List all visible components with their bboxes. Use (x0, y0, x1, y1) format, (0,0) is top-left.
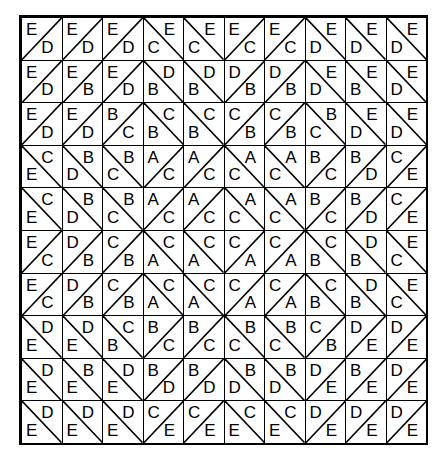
triangle-label: C (391, 149, 403, 166)
grid-cell: DE (386, 400, 428, 444)
triangle-label: B (188, 124, 199, 141)
triangle-label: E (26, 166, 37, 183)
triangle-label: E (107, 64, 118, 81)
triangle-label: A (285, 294, 296, 311)
grid-cell: CB (264, 315, 306, 359)
triangle-label: D (391, 319, 403, 336)
grid-cell: CB (305, 102, 347, 146)
triangle-label: C (269, 209, 281, 226)
triangle-label: E (107, 422, 118, 439)
grid-cell: CB (102, 145, 144, 189)
triangle-label: C (203, 166, 215, 183)
grid-cell: ED (21, 17, 63, 61)
grid-cell: AC (183, 273, 225, 317)
triangle-label: B (148, 124, 159, 141)
grid-cell: DE (305, 17, 347, 61)
triangle-label: E (326, 422, 337, 439)
triangle-label: B (148, 81, 159, 98)
grid-cell: ED (62, 102, 104, 146)
grid-cell: DE (305, 400, 347, 444)
grid-cell: BE (345, 358, 387, 402)
triangle-label: C (229, 337, 241, 354)
triangle-label: B (285, 81, 296, 98)
triangle-label: B (310, 252, 321, 269)
grid-cell: CB (102, 187, 144, 231)
triangle-label: A (148, 294, 159, 311)
triangle-label: D (82, 39, 94, 56)
grid-cell: CE (386, 145, 428, 189)
triangle-label: E (26, 234, 37, 251)
triangle-label: D (310, 39, 322, 56)
grid-cell: AC (183, 145, 225, 189)
grid-cell: AC (143, 230, 185, 274)
grid-cell: CA (224, 273, 266, 317)
triangle-label: C (229, 209, 241, 226)
grid-cell: ED (102, 358, 144, 402)
triangle-label: D (310, 362, 322, 379)
triangle-label: B (326, 106, 337, 123)
triangle-label: C (203, 106, 215, 123)
triangle-label: D (41, 81, 53, 98)
triangle-label: D (41, 39, 53, 56)
grid-cell: DE (386, 358, 428, 402)
grid-cell: DB (62, 145, 104, 189)
triangle-label: E (67, 379, 78, 396)
grid-cell: CA (224, 145, 266, 189)
triangle-label: C (325, 166, 337, 183)
grid-cell: DE (386, 17, 428, 61)
grid-cell: EC (21, 273, 63, 317)
triangle-label: C (41, 149, 53, 166)
triangle-label: E (366, 21, 377, 38)
triangle-label: E (67, 64, 78, 81)
grid-cell: ED (21, 102, 63, 146)
triangle-label: C (122, 319, 134, 336)
triangle-label: B (245, 319, 256, 336)
triangle-label: E (366, 337, 377, 354)
triangle-label: C (148, 404, 160, 421)
grid-cell: ED (102, 400, 144, 444)
triangle-label: C (41, 252, 53, 269)
triangle-label: D (163, 64, 175, 81)
triangle-label: E (269, 422, 280, 439)
grid-cell: DB (224, 358, 266, 402)
triangle-label: A (245, 191, 256, 208)
triangle-label: E (67, 337, 78, 354)
grid-cell: AC (183, 230, 225, 274)
grid-cell: ED (62, 400, 104, 444)
triangle-label: A (285, 191, 296, 208)
triangle-label: D (41, 319, 53, 336)
triangle-label: B (285, 362, 296, 379)
grid-cell: CE (183, 17, 225, 61)
grid-cell: BC (143, 315, 185, 359)
triangle-label: B (310, 294, 321, 311)
triangle-label: C (391, 294, 403, 311)
grid-cell: CE (386, 230, 428, 274)
triangle-label: C (163, 277, 175, 294)
triangle-label: D (122, 81, 134, 98)
triangle-label: E (407, 21, 418, 38)
triangle-label: D (391, 81, 403, 98)
grid-cell: EC (264, 17, 306, 61)
triangle-label: A (148, 252, 159, 269)
triangle-label: D (350, 319, 362, 336)
triangle-label: B (326, 337, 337, 354)
triangle-label: B (148, 362, 159, 379)
triangle-label: C (269, 337, 281, 354)
triangle-label: A (285, 149, 296, 166)
grid-cell: BD (143, 60, 185, 104)
triangle-label: B (285, 319, 296, 336)
triangle-label: E (107, 21, 118, 38)
triangle-label: C (244, 404, 256, 421)
triangle-label: C (107, 277, 119, 294)
triangle-label: B (245, 81, 256, 98)
triangle-label: C (391, 191, 403, 208)
triangle-label: E (326, 379, 337, 396)
triangle-label: C (269, 234, 281, 251)
triangle-label: C (269, 106, 281, 123)
triangle-label: A (188, 149, 199, 166)
grid-cell: CA (264, 145, 306, 189)
grid-cell: AC (143, 273, 185, 317)
triangle-label: B (310, 191, 321, 208)
triangle-label: B (350, 191, 361, 208)
triangle-label: C (203, 277, 215, 294)
